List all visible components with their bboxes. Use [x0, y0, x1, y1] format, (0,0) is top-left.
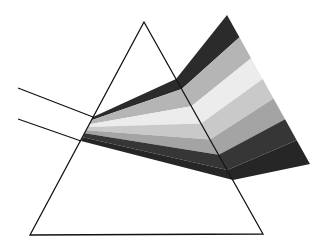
incident-ray-bottom	[18, 119, 81, 141]
incident-ray-top	[18, 88, 93, 117]
prism-svg	[0, 0, 325, 251]
prism-diagram: Dispersion of light through a prism	[0, 0, 325, 251]
incident-rays	[18, 88, 93, 141]
